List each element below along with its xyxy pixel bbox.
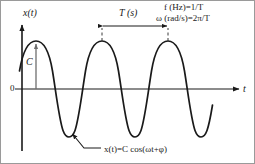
origin-label: 0 xyxy=(10,84,15,93)
y-axis-label: x(t) xyxy=(23,8,37,18)
equation-label: x(t)=C cos(ωt+φ) xyxy=(104,145,167,154)
equation-leader-line xyxy=(73,134,102,148)
frequency-hz-label: f (Hz)=1/T xyxy=(164,3,203,12)
figure-canvas xyxy=(1,1,255,164)
frequency-rad-label: ω (rad/s)=2π/T xyxy=(156,14,210,23)
x-axis-label: t xyxy=(243,84,246,94)
waveform-figure: x(t) 0 t C T (s) f (Hz)=1/T ω (rad/s)=2π… xyxy=(0,0,255,164)
amplitude-label: C xyxy=(26,57,33,67)
period-label: T (s) xyxy=(119,8,137,18)
